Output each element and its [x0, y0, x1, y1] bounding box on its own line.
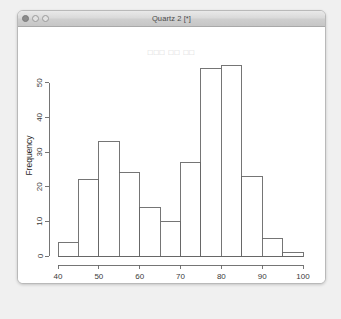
histogram-bar — [119, 173, 139, 256]
histogram-bar — [78, 180, 98, 256]
x-tick-label: 100 — [296, 272, 310, 281]
histogram-bar — [58, 242, 78, 256]
x-tick-label: 60 — [135, 272, 144, 281]
y-tick-label: 10 — [36, 216, 45, 225]
chart-title: □□□ □□ □□ — [18, 48, 325, 57]
y-tick-label: 50 — [36, 78, 45, 87]
x-tick-label: 50 — [94, 272, 103, 281]
close-button[interactable] — [22, 15, 29, 22]
y-tick-label: 20 — [36, 182, 45, 191]
histogram-bar — [283, 253, 303, 256]
y-tick-label: 0 — [36, 253, 45, 258]
x-tick-label: 90 — [258, 272, 267, 281]
plot-canvas: □□□ □□ □□ 01020304050405060708090100fait… — [18, 27, 325, 283]
zoom-button[interactable] — [42, 15, 49, 22]
histogram-bar — [221, 65, 241, 256]
histogram-bar — [201, 69, 221, 256]
window-title: Quartz 2 [*] — [18, 14, 325, 23]
minimize-button[interactable] — [32, 15, 39, 22]
x-tick-label: 40 — [54, 272, 63, 281]
histogram-bars — [58, 65, 303, 256]
histogram-bar — [181, 162, 201, 256]
quartz-window: Quartz 2 [*] □□□ □□ □□ 01020304050405060… — [17, 10, 326, 284]
histogram-plot: 01020304050405060708090100faithful$waiti… — [18, 27, 325, 283]
x-tick-label: 80 — [217, 272, 226, 281]
y-axis-label: Frequency — [24, 135, 34, 176]
y-tick-label: 30 — [36, 147, 45, 156]
window-titlebar[interactable]: Quartz 2 [*] — [18, 11, 325, 27]
x-tick-label: 70 — [176, 272, 185, 281]
histogram-bar — [99, 142, 119, 256]
histogram-bar — [140, 207, 160, 256]
y-tick-label: 40 — [36, 112, 45, 121]
window-controls — [22, 11, 49, 26]
histogram-bar — [242, 176, 262, 256]
histogram-bar — [160, 221, 180, 256]
histogram-bar — [262, 239, 282, 256]
